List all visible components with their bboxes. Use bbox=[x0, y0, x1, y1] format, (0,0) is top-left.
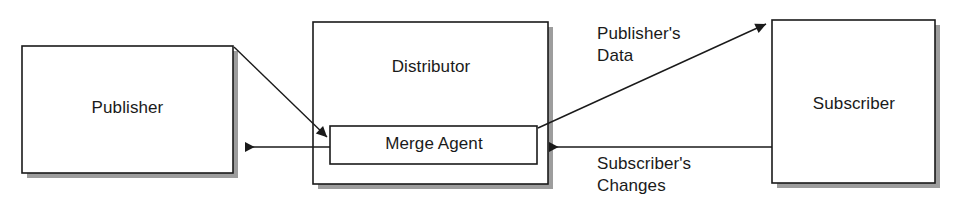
merge-agent-box[interactable] bbox=[330, 126, 537, 164]
publisher-box[interactable] bbox=[22, 46, 233, 173]
diagram-canvas: Publisher Distributor Merge Agent Subscr… bbox=[0, 0, 960, 213]
arrow-merge-agent-to-subscriber bbox=[538, 24, 766, 128]
diagram-vector-layer bbox=[0, 0, 960, 213]
subscriber-box[interactable] bbox=[772, 20, 935, 183]
